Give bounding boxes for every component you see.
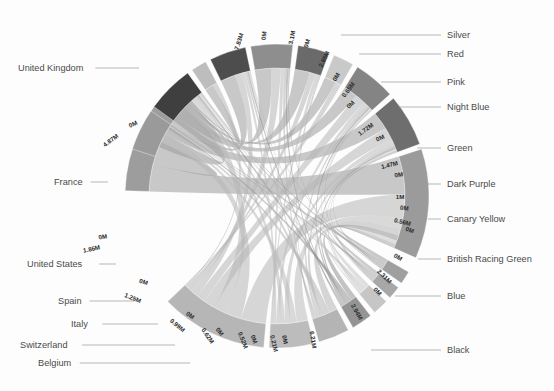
node-label-black[interactable]: Black xyxy=(447,345,470,355)
arc-green[interactable] xyxy=(251,44,293,70)
arc-value-cy-end: 0M xyxy=(400,203,409,211)
node-label-dark-purple[interactable]: Dark Purple xyxy=(447,179,496,189)
arc-value-us-start: 1.86M xyxy=(82,243,100,253)
node-label-night-blue[interactable]: Night Blue xyxy=(447,102,489,112)
arc-value-dp-end: 0M xyxy=(394,170,403,178)
arc-value-sp-start: 1.25M xyxy=(124,291,143,304)
arc-value-us-end: 0M xyxy=(98,232,107,240)
arc-value-sv-start: 3.1M xyxy=(287,30,297,45)
node-label-united-kingdom[interactable]: United Kingdom xyxy=(18,63,84,73)
node-label-green[interactable]: Green xyxy=(447,143,473,153)
arc-value-sp-end: 0M xyxy=(139,277,149,286)
node-label-spain[interactable]: Spain xyxy=(58,296,82,306)
arc-value-fr-start: 4.87M xyxy=(102,132,120,148)
node-label-pink[interactable]: Pink xyxy=(447,77,465,87)
node-label-switzerland[interactable]: Switzerland xyxy=(20,340,68,350)
arc-value-rd-end: 0M xyxy=(302,38,311,48)
node-label-silver[interactable]: Silver xyxy=(447,30,470,40)
ribbons-layer xyxy=(149,68,405,324)
arc-value-uk-end: 0M xyxy=(260,31,268,40)
node-label-belgium[interactable]: Belgium xyxy=(38,358,72,368)
node-label-france[interactable]: France xyxy=(54,177,83,187)
chord-diagram-svg: 7.83M0M4.87M0M1.86M0M1.25M0M0.99M0M0.62M… xyxy=(0,0,554,391)
node-label-canary-yellow[interactable]: Canary Yellow xyxy=(447,214,506,224)
node-label-blue[interactable]: Blue xyxy=(447,291,465,301)
arc-value-it-start: 0.99M xyxy=(169,317,187,333)
chord-diagram-canvas: 7.83M0M4.87M0M1.86M0M1.25M0M0.99M0M0.62M… xyxy=(0,0,554,391)
node-label-italy[interactable]: Italy xyxy=(71,319,88,329)
node-label-british-racing-green[interactable]: British Racing Green xyxy=(447,254,532,264)
node-label-united-states[interactable]: United States xyxy=(27,259,83,269)
node-label-red[interactable]: Red xyxy=(447,49,464,59)
arc-value-fr-end: 0M xyxy=(128,119,139,129)
arc-value-bl-end: 0M xyxy=(393,252,404,262)
arc-value-dp-start: 1M xyxy=(396,193,405,200)
